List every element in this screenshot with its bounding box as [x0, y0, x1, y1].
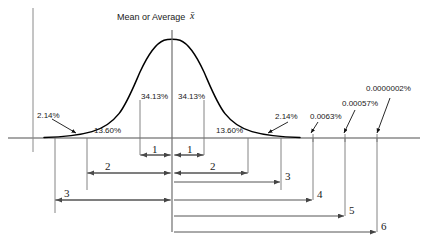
- leader-arrow-left-2-14: [52, 119, 76, 133]
- label-sigma-2-left: 2: [105, 160, 111, 172]
- label-sigma-3-right: 3: [285, 170, 291, 182]
- leader-arrow-0-00057: [344, 110, 355, 133]
- label-pct-right-13-60: 13.60%: [216, 126, 243, 135]
- mean-symbol: x̄: [190, 10, 194, 21]
- label-pct-0-00057: 0.00057%: [342, 99, 378, 108]
- leader-arrow-0-0063: [311, 122, 318, 133]
- label-pct-left-2-14: 2.14%: [37, 111, 60, 120]
- label-sigma-6: 6: [381, 220, 387, 232]
- label-sigma-1-right: 1: [187, 143, 193, 155]
- label-pct-0-0063: 0.0063%: [310, 112, 342, 121]
- leader-arrow-0-0000002: [377, 98, 390, 133]
- figure-title: Mean or Average: [117, 12, 185, 22]
- label-pct-left-34-13: 34.13%: [141, 92, 168, 101]
- label-pct-0-0000002: 0.0000002%: [366, 84, 411, 93]
- label-pct-right-2-14: 2.14%: [275, 112, 298, 121]
- distribution-canvas: [0, 0, 430, 245]
- normal-distribution-figure: Mean or Average x̄ 2.14% 13.60% 34.13% 3…: [0, 0, 430, 245]
- label-sigma-1-left: 1: [152, 143, 158, 155]
- label-sigma-5: 5: [349, 204, 355, 216]
- label-pct-left-13-60: 13.60%: [94, 126, 121, 135]
- label-sigma-4: 4: [317, 188, 323, 200]
- label-sigma-2-right: 2: [210, 160, 216, 172]
- label-pct-right-34-13: 34.13%: [178, 92, 205, 101]
- label-sigma-3-left: 3: [64, 187, 70, 199]
- leader-arrow-right-2-14: [268, 122, 288, 133]
